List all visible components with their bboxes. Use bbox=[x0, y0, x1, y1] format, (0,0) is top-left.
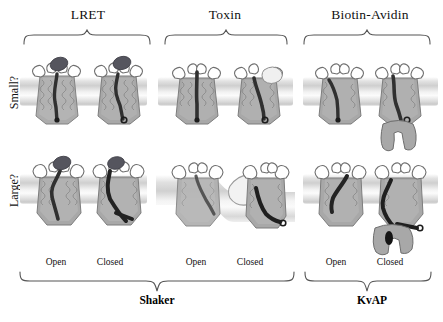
channel-lret-large-open bbox=[28, 155, 90, 231]
figure-canvas: LRET Toxin Biotin-Avidin Small? Large? bbox=[0, 0, 443, 322]
group-label-shaker: Shaker bbox=[97, 294, 217, 306]
state-label-lret-open: Open bbox=[30, 257, 82, 267]
channel-biotin-large-closed bbox=[367, 158, 441, 258]
avidin-blob-large bbox=[373, 225, 413, 255]
brace-lret-top bbox=[22, 29, 154, 45]
channel-toxin-large-closed bbox=[226, 158, 298, 236]
state-label-toxin-closed: Closed bbox=[222, 257, 278, 267]
brace-toxin-top bbox=[163, 29, 291, 45]
channel-lret-small-closed bbox=[88, 56, 150, 128]
channel-lret-small-open bbox=[26, 56, 88, 128]
channel-toxin-small-open bbox=[166, 58, 228, 128]
state-label-biotin-closed: Closed bbox=[362, 257, 418, 267]
state-label-biotin-open: Open bbox=[310, 257, 362, 267]
channel-biotin-small-open bbox=[309, 58, 371, 128]
channel-lret-large-closed bbox=[88, 155, 150, 231]
avidin-blob bbox=[381, 121, 416, 151]
channel-toxin-large-open bbox=[166, 158, 230, 230]
toxin-blob bbox=[262, 67, 282, 84]
brace-biotin-avidin-top bbox=[302, 29, 434, 45]
channel-toxin-small-closed bbox=[228, 58, 292, 128]
brace-shaker bbox=[18, 271, 298, 293]
state-label-lret-closed: Closed bbox=[82, 257, 138, 267]
channel-biotin-small-closed bbox=[369, 58, 439, 154]
column-title-lret: LRET bbox=[28, 7, 148, 23]
column-title-toxin: Toxin bbox=[170, 7, 280, 23]
group-label-kvap: KvAP bbox=[327, 294, 417, 306]
state-label-toxin-open: Open bbox=[170, 257, 222, 267]
channel-biotin-large-open bbox=[309, 158, 371, 230]
brace-kvap bbox=[303, 271, 435, 293]
column-title-biotin-avidin: Biotin-Avidin bbox=[305, 7, 435, 23]
